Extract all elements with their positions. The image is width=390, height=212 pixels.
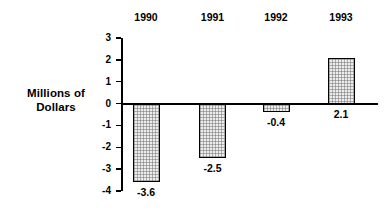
x-axis-label-1993: 1993 <box>311 12 371 23</box>
value-label-1992: -0.4 <box>246 117 306 128</box>
y-tick-label: -2 <box>89 142 111 152</box>
y-tick-mark <box>116 81 121 83</box>
y-tick-label: -3 <box>89 164 111 174</box>
y-tick-mark <box>116 168 121 170</box>
bar-chart: Millions of Dollars 3210-1-2-3-4 1990-3.… <box>0 0 390 212</box>
bar-1992 <box>263 104 290 113</box>
y-tick-mark <box>116 103 121 105</box>
y-tick-label: -4 <box>89 186 111 196</box>
bar-1991 <box>199 104 226 159</box>
y-tick-mark <box>116 147 121 149</box>
value-label-1991: -2.5 <box>183 163 243 174</box>
plot-area: 3210-1-2-3-4 1990-3.61991-2.51992-0.4199… <box>121 38 378 191</box>
y-tick-label: 3 <box>89 33 111 43</box>
value-label-1993: 2.1 <box>311 109 371 120</box>
y-axis-line <box>121 38 123 191</box>
x-axis-label-1990: 1990 <box>116 12 176 23</box>
y-tick-label: 2 <box>89 55 111 65</box>
x-axis-label-1991: 1991 <box>183 12 243 23</box>
y-tick-mark <box>116 59 121 61</box>
bar-1990 <box>133 104 160 183</box>
y-tick-label: -1 <box>89 120 111 130</box>
y-tick-label: 1 <box>89 77 111 87</box>
bar-1993 <box>328 58 355 104</box>
y-tick-mark <box>116 125 121 127</box>
y-tick-mark <box>116 37 121 39</box>
x-axis-label-1992: 1992 <box>246 12 306 23</box>
value-label-1990: -3.6 <box>116 187 176 198</box>
y-tick-label: 0 <box>89 99 111 109</box>
